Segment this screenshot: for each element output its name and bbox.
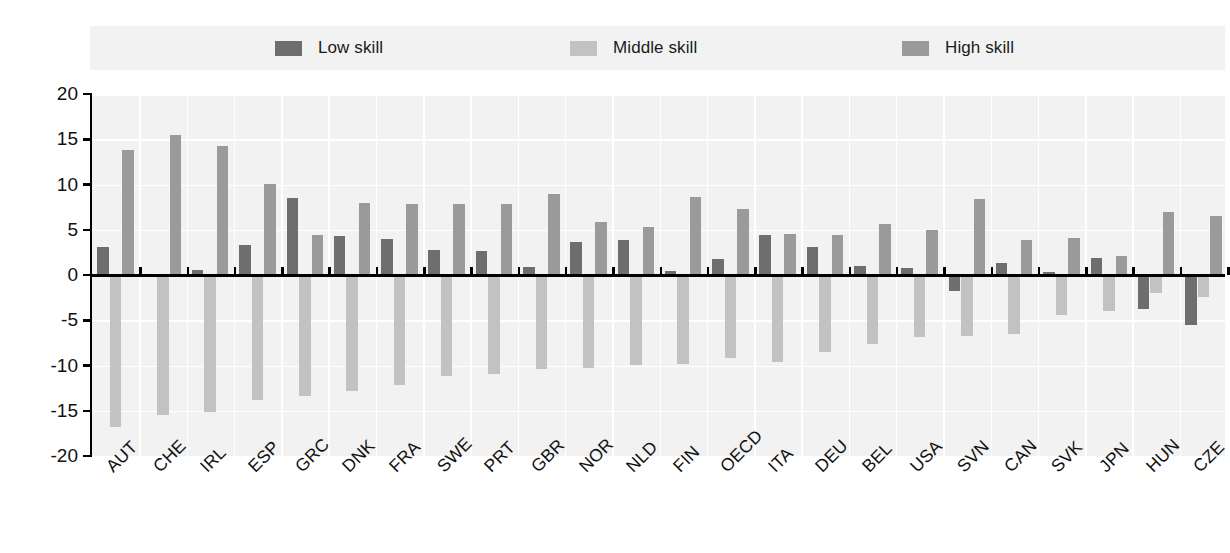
x-tick-mark <box>1132 267 1135 275</box>
x-tick-mark <box>991 267 994 275</box>
x-tick-mark <box>1180 267 1183 275</box>
x-tick-mark <box>281 267 284 275</box>
y-tick-mark <box>83 364 92 367</box>
gridline-vertical <box>1227 94 1229 456</box>
legend-item-high-skill: High skill <box>902 26 1014 70</box>
zero-baseline <box>92 274 1225 277</box>
bar-bel-middle-skill <box>867 275 879 344</box>
bar-ita-low-skill <box>759 235 771 275</box>
y-tick-mark <box>83 455 92 458</box>
bar-nor-middle-skill <box>583 275 595 368</box>
bar-fra-low-skill <box>381 239 393 275</box>
gridline-horizontal <box>92 230 1225 232</box>
legend-swatch-middle-skill <box>570 41 597 56</box>
x-tick-mark <box>801 267 804 275</box>
bar-irl-high-skill <box>217 146 229 275</box>
bar-irl-middle-skill <box>204 275 216 412</box>
x-tick-mark <box>328 267 331 275</box>
legend-label-high-skill: High skill <box>945 38 1014 58</box>
x-tick-mark <box>423 267 426 275</box>
bar-cze-low-skill <box>1185 275 1197 325</box>
bar-esp-high-skill <box>264 184 276 275</box>
y-tick-mark <box>83 319 92 322</box>
bar-cze-high-skill <box>1210 216 1222 275</box>
bar-swe-low-skill <box>428 250 440 275</box>
x-tick-mark <box>707 267 710 275</box>
bar-usa-high-skill <box>926 230 938 275</box>
bar-fin-high-skill <box>690 197 702 275</box>
bar-oecd-high-skill <box>737 209 749 275</box>
bar-jpn-high-skill <box>1116 256 1128 275</box>
bar-ita-high-skill <box>784 234 796 275</box>
x-tick-mark <box>1085 267 1088 275</box>
x-tick-mark <box>470 267 473 275</box>
legend-item-middle-skill: Middle skill <box>570 26 697 70</box>
gridline-horizontal <box>92 94 1225 96</box>
bar-svk-high-skill <box>1068 238 1080 275</box>
x-tick-mark <box>1038 267 1041 275</box>
bar-svn-low-skill <box>949 275 961 291</box>
y-tick-label: -10 <box>51 355 78 377</box>
bar-fra-high-skill <box>406 204 418 275</box>
bar-nld-low-skill <box>618 240 630 275</box>
bar-nor-high-skill <box>595 222 607 275</box>
x-tick-mark <box>187 267 190 275</box>
bar-gbr-high-skill <box>548 194 560 275</box>
gridline-horizontal <box>92 411 1225 413</box>
bar-hun-high-skill <box>1163 212 1175 275</box>
x-tick-mark <box>754 267 757 275</box>
y-tick-label: -5 <box>61 309 78 331</box>
bar-svn-middle-skill <box>961 275 973 336</box>
legend-swatch-low-skill <box>275 41 302 56</box>
bar-che-middle-skill <box>157 275 169 415</box>
x-tick-mark <box>1227 267 1230 275</box>
bar-fra-middle-skill <box>394 275 406 385</box>
plot-area <box>90 94 1225 456</box>
bar-ita-middle-skill <box>772 275 784 362</box>
bar-can-high-skill <box>1021 240 1033 275</box>
legend-label-low-skill: Low skill <box>318 38 383 58</box>
bar-bel-high-skill <box>879 224 891 275</box>
chart-container: Low skill Middle skill High skill 201510… <box>0 0 1230 553</box>
y-tick-mark <box>83 93 92 96</box>
y-tick-mark <box>83 229 92 232</box>
y-tick-mark <box>83 274 92 277</box>
bar-hun-middle-skill <box>1150 275 1162 293</box>
bar-grc-middle-skill <box>299 275 311 396</box>
y-tick-label: 0 <box>67 264 78 286</box>
bar-svn-high-skill <box>974 199 986 275</box>
bar-deu-high-skill <box>832 235 844 275</box>
bar-prt-middle-skill <box>488 275 500 374</box>
bar-usa-middle-skill <box>914 275 926 337</box>
bar-hun-low-skill <box>1138 275 1150 309</box>
bar-gbr-middle-skill <box>536 275 548 369</box>
bar-swe-middle-skill <box>441 275 453 376</box>
bar-oecd-middle-skill <box>725 275 737 358</box>
y-tick-label: 15 <box>57 128 78 150</box>
bar-deu-low-skill <box>807 247 819 275</box>
y-tick-label: -20 <box>51 445 78 467</box>
x-tick-mark <box>660 267 663 275</box>
legend-item-low-skill: Low skill <box>275 26 383 70</box>
bar-aut-low-skill <box>97 247 109 275</box>
bar-che-high-skill <box>170 135 182 275</box>
x-tick-mark <box>943 267 946 275</box>
bar-deu-middle-skill <box>819 275 831 352</box>
bar-jpn-low-skill <box>1091 258 1103 275</box>
bar-cze-middle-skill <box>1198 275 1210 297</box>
bar-aut-high-skill <box>122 150 134 275</box>
bar-grc-high-skill <box>312 235 324 275</box>
x-tick-mark <box>234 267 237 275</box>
bar-dnk-low-skill <box>334 236 346 275</box>
legend-label-middle-skill: Middle skill <box>613 38 697 58</box>
gridline-horizontal <box>92 139 1225 141</box>
x-tick-mark <box>139 267 142 275</box>
y-tick-label: 5 <box>67 219 78 241</box>
bar-nld-middle-skill <box>630 275 642 365</box>
bar-prt-low-skill <box>476 251 488 275</box>
gridline-horizontal <box>92 185 1225 187</box>
y-tick-mark <box>83 410 92 413</box>
x-tick-mark <box>518 267 521 275</box>
x-axis-labels: AUTCHEIRLESPGRCDNKFRASWEPRTGBRNORNLDFINO… <box>90 456 1225 546</box>
bar-fin-middle-skill <box>677 275 689 364</box>
